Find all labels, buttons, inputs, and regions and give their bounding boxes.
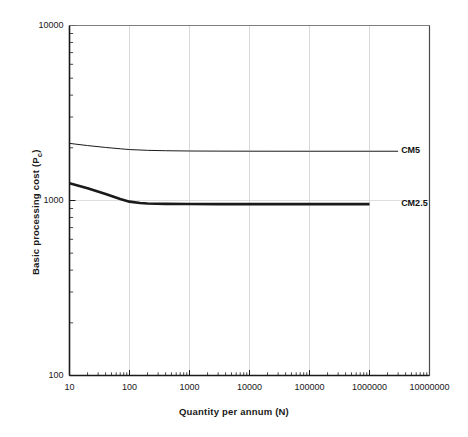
chart-figure: 10100100010000100000100000010000000 1001… [0, 0, 468, 437]
y-axis-title-close: ) [30, 149, 41, 152]
data-series [70, 143, 399, 204]
y-tick-label: 10000 [4, 20, 64, 30]
series-label-cm5: CM5 [401, 145, 420, 155]
x-axis-title: Quantity per annum (N) [0, 406, 468, 417]
x-tick-label: 10000000 [390, 382, 468, 392]
y-axis-title: Basic processing cost (Pc) [30, 149, 44, 275]
series-label-cm25: CM2.5 [401, 198, 428, 208]
y-tick-label: 100 [4, 370, 64, 380]
chart-canvas [0, 0, 468, 437]
y-axis-title-subscript: c [35, 153, 44, 157]
y-axis-title-base: Basic processing cost (P [30, 157, 41, 275]
